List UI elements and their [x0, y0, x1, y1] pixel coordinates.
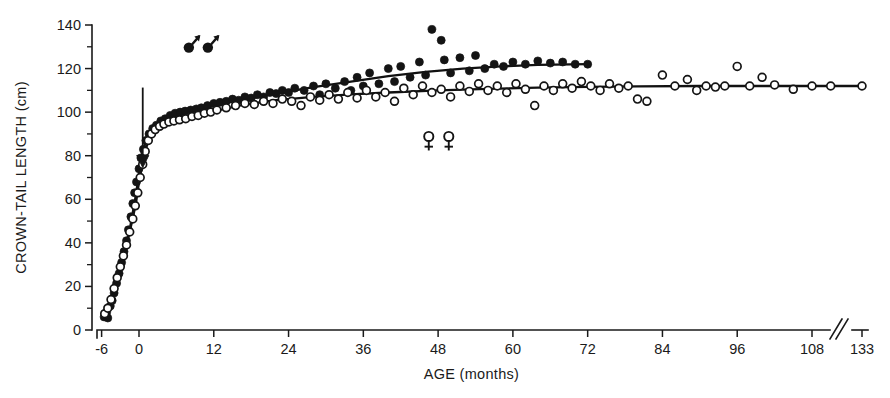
- data-point-female: [278, 95, 286, 103]
- data-point-female: [131, 202, 139, 210]
- data-point-female: [381, 89, 389, 97]
- data-point-male: [397, 62, 405, 70]
- data-point-male: [472, 52, 480, 60]
- data-point-male: [422, 71, 430, 79]
- x-axis-tick-label: 84: [654, 341, 670, 357]
- data-point-female: [659, 71, 667, 79]
- data-point-female: [634, 95, 642, 103]
- data-point-male: [437, 36, 445, 44]
- data-point-female: [447, 93, 455, 101]
- data-point-male: [456, 54, 464, 62]
- figure-panel: 020406080100120140-601224364860728496108…: [0, 0, 890, 398]
- data-point-male: [571, 60, 579, 68]
- data-point-female: [615, 84, 623, 92]
- data-point-male: [546, 59, 554, 67]
- data-point-male: [440, 56, 448, 64]
- data-point-female: [104, 304, 112, 312]
- x-axis-tick-label: 48: [430, 341, 446, 357]
- data-point-female: [712, 83, 720, 91]
- data-point-male: [331, 84, 339, 92]
- data-point-male: [353, 73, 361, 81]
- data-point-male: [366, 69, 374, 77]
- axis-labels-layer: CROWN-TAIL LENGTH (cm)AGE (months): [13, 81, 519, 382]
- data-point-female: [428, 89, 436, 97]
- data-point-male: [375, 80, 383, 88]
- x-axis-line: [97, 330, 830, 338]
- data-point-female: [400, 84, 408, 92]
- male-growth-curve: [104, 64, 588, 316]
- scatter-plot: 020406080100120140-601224364860728496108…: [0, 0, 890, 398]
- male-symbol-icon: [203, 35, 220, 53]
- data-point-female: [241, 100, 249, 108]
- data-point-female: [222, 104, 230, 112]
- data-points-layer: [100, 25, 866, 322]
- data-point-female: [372, 93, 380, 101]
- female-symbol-icon: [424, 132, 433, 151]
- data-point-female: [363, 87, 371, 95]
- data-point-female: [269, 100, 277, 108]
- data-point-female: [437, 85, 445, 93]
- data-point-female: [721, 82, 729, 90]
- x-axis-tick-label: -6: [95, 341, 108, 357]
- data-point-male: [322, 80, 330, 88]
- data-point-female: [419, 82, 427, 90]
- data-point-female: [353, 94, 361, 102]
- data-point-female: [587, 82, 595, 90]
- x-axis-tick-label: 24: [280, 341, 296, 357]
- data-point-female: [213, 106, 221, 114]
- data-point-female: [250, 101, 258, 109]
- data-point-female: [456, 82, 464, 90]
- data-point-female: [503, 89, 511, 97]
- data-point-female: [475, 80, 483, 88]
- data-point-female: [596, 87, 604, 95]
- data-point-female: [344, 89, 352, 97]
- x-axis-tick-label: 133: [850, 341, 874, 357]
- data-point-male: [341, 78, 349, 86]
- data-point-female: [113, 274, 121, 282]
- data-point-male: [490, 60, 498, 68]
- data-point-male: [500, 62, 508, 70]
- y-axis-tick-label: 40: [65, 235, 81, 251]
- y-axis-tick-label: 100: [57, 104, 81, 120]
- data-point-female: [335, 95, 343, 103]
- data-point-female: [684, 76, 692, 84]
- data-point-female: [297, 102, 305, 110]
- data-point-female: [671, 82, 679, 90]
- x-axis-tick-label: 72: [580, 341, 596, 357]
- x-axis-tick-label: 0: [135, 341, 143, 357]
- female-symbol-icon: [444, 132, 453, 151]
- data-point-male: [391, 78, 399, 86]
- y-axis-tick-label: 120: [57, 61, 81, 77]
- male-symbol-icon: [184, 35, 201, 53]
- data-point-male: [584, 60, 592, 68]
- data-point-female: [550, 87, 558, 95]
- data-point-female: [606, 80, 614, 88]
- data-point-female: [702, 82, 710, 90]
- data-point-female: [260, 97, 268, 105]
- data-point-male: [534, 57, 542, 65]
- data-point-female: [107, 296, 115, 304]
- data-point-female: [134, 189, 142, 197]
- data-point-female: [484, 87, 492, 95]
- data-point-male: [509, 58, 517, 66]
- data-point-female: [307, 93, 315, 101]
- y-axis-tick-label: 140: [57, 17, 81, 33]
- data-point-female: [559, 80, 567, 88]
- data-point-female: [316, 96, 324, 104]
- data-point-female: [116, 263, 124, 271]
- x-axis-tick-label: 108: [800, 341, 824, 357]
- birth-arrow-icon: [137, 88, 149, 168]
- data-point-female: [643, 97, 651, 105]
- data-point-female: [746, 82, 754, 90]
- data-point-female: [120, 252, 128, 260]
- data-point-male: [521, 60, 529, 68]
- data-point-female: [136, 174, 144, 182]
- data-point-female: [758, 73, 766, 81]
- data-point-female: [129, 215, 137, 223]
- data-point-female: [465, 88, 473, 96]
- data-point-male: [559, 58, 567, 66]
- x-axis-break-icon: [830, 319, 848, 339]
- x-axis-tick-label: 96: [729, 341, 745, 357]
- data-point-female: [789, 85, 797, 93]
- data-point-female: [391, 97, 399, 105]
